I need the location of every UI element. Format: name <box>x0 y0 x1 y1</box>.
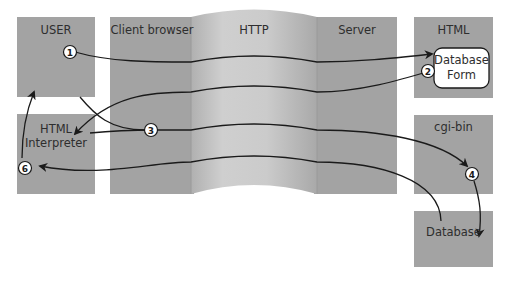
step-2-badge: 2 <box>422 65 435 78</box>
server-label: Server <box>317 23 397 37</box>
http-label: HTTP <box>191 23 317 37</box>
step-4-badge: 4 <box>466 168 479 181</box>
html-interpreter-label-line1: HTML <box>17 122 95 136</box>
user-label: USER <box>17 23 95 37</box>
client-browser-label: Client browser <box>110 23 194 37</box>
cgi-bin-label: cgi-bin <box>414 120 493 134</box>
svg-text:3: 3 <box>148 126 154 136</box>
svg-text:2: 2 <box>425 67 431 77</box>
database-form-label-line2: Form <box>434 68 489 82</box>
http-cylinder <box>191 10 317 195</box>
step-3-badge: 3 <box>145 124 158 137</box>
svg-text:6: 6 <box>22 164 28 174</box>
database-label: Database <box>414 225 493 239</box>
step-6-badge: 6 <box>19 162 32 175</box>
svg-text:4: 4 <box>469 170 475 180</box>
html-label: HTML <box>414 23 493 37</box>
html-interpreter-label-line2: Interpreter <box>17 136 95 150</box>
step-1-badge: 1 <box>64 46 77 59</box>
svg-text:1: 1 <box>67 48 73 58</box>
database-form-label-line1: Database <box>434 53 489 67</box>
